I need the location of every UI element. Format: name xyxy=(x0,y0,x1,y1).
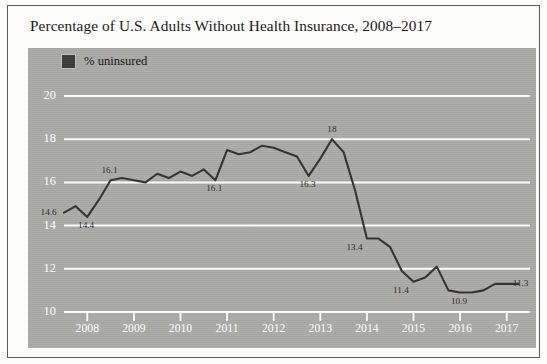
data-point-label: 14.6 xyxy=(41,207,57,217)
y-axis-tick-label: 14 xyxy=(30,218,56,233)
data-point-label: 14.4 xyxy=(78,220,94,230)
data-point-label: 16.3 xyxy=(299,179,315,189)
data-point-label: 16.1 xyxy=(101,165,117,175)
x-axis-tick-label: 2014 xyxy=(344,322,390,335)
x-axis-tick-label: 2013 xyxy=(297,322,343,335)
x-axis-tick-label: 2011 xyxy=(204,322,250,335)
y-axis-tick-label: 16 xyxy=(30,174,56,189)
plot-panel: % uninsured 101214161820 200820092010201… xyxy=(28,48,536,348)
data-point-label: 11.4 xyxy=(393,285,409,295)
y-axis-tick-label: 18 xyxy=(30,131,56,146)
data-point-label: 16.1 xyxy=(206,183,222,193)
x-axis-tick-label: 2009 xyxy=(111,322,157,335)
y-axis-tick-label: 12 xyxy=(30,261,56,276)
y-axis-tick-label: 10 xyxy=(30,304,56,319)
x-axis-tick-label: 2016 xyxy=(437,322,483,335)
y-axis-tick-label: 20 xyxy=(30,88,56,103)
x-axis-tick-label: 2015 xyxy=(391,322,437,335)
data-point-label: 11.3 xyxy=(513,278,529,288)
chart-title: Percentage of U.S. Adults Without Health… xyxy=(30,17,530,35)
x-axis-tick-label: 2010 xyxy=(158,322,204,335)
figure-frame: Percentage of U.S. Adults Without Health… xyxy=(7,5,540,358)
data-point-label: 13.4 xyxy=(347,242,363,252)
data-point-label: 18 xyxy=(327,124,336,134)
data-point-label: 10.9 xyxy=(451,296,467,306)
x-axis-tick-label: 2012 xyxy=(251,322,297,335)
x-axis-tick-label: 2017 xyxy=(484,322,530,335)
figure-page: Percentage of U.S. Adults Without Health… xyxy=(0,0,547,364)
x-axis-tick-label: 2008 xyxy=(64,322,110,335)
